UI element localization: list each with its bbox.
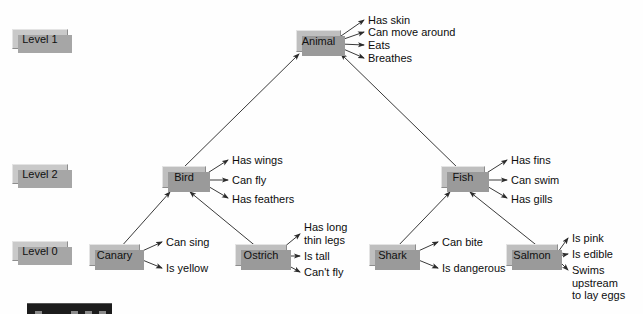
property-label-salmon-is-pink: Is pink: [572, 232, 604, 245]
concept-node-label: Salmon: [513, 250, 550, 261]
level-tag-label: Level 0: [22, 246, 57, 257]
concept-node-salmon[interactable]: Salmon: [506, 244, 558, 266]
property-label-salmon-swims-upstream-to-lay-eggs: Swims upstream to lay eggs: [572, 264, 625, 302]
property-label-fish-has-gills: Has gills: [511, 193, 553, 206]
semantic-network-diagram: Level 1 Level 2 Level 0 Animal Bird Fish…: [0, 0, 643, 314]
level-tag-level-1: Level 1: [12, 29, 68, 49]
cropped-toolbar-strip: [27, 303, 112, 314]
property-label-animal-breathes: Breathes: [368, 52, 412, 65]
prop-link-animal-0: [341, 20, 364, 36]
concept-node-label: Fish: [453, 172, 474, 183]
level-tag-label: Level 1: [22, 34, 57, 45]
level-tag-level-2: Level 2: [12, 164, 68, 184]
isa-link-bird-animal: [181, 54, 299, 170]
property-label-fish-has-fins: Has fins: [511, 154, 551, 167]
property-label-canary-can-sing: Can sing: [166, 236, 209, 249]
concept-node-label: Animal: [302, 36, 336, 47]
property-label-shark-can-bite: Can bite: [442, 236, 483, 249]
concept-node-canary[interactable]: Canary: [89, 244, 140, 266]
property-label-ostrich-is-tall: Is tall: [304, 250, 330, 263]
level-tag-level-0: Level 0: [12, 241, 68, 261]
concept-node-label: Bird: [174, 172, 194, 183]
concept-node-label: Ostrich: [244, 250, 279, 261]
property-label-animal-has-skin: Has skin: [368, 14, 410, 27]
property-label-ostrich-has-long-thin-legs: Has long thin legs: [304, 221, 347, 246]
concept-node-bird[interactable]: Bird: [162, 166, 206, 188]
property-label-bird-has-feathers: Has feathers: [232, 193, 294, 206]
isa-link-canary-bird: [120, 192, 170, 248]
concept-node-shark[interactable]: Shark: [369, 244, 416, 266]
property-label-salmon-is-edible: Is edible: [572, 248, 613, 261]
concept-node-animal[interactable]: Animal: [296, 30, 341, 52]
property-label-animal-can-move-around: Can move around: [368, 26, 455, 39]
level-tag-label: Level 2: [22, 169, 57, 180]
concept-node-label: Shark: [378, 250, 407, 261]
property-label-ostrich-cant-fly: Can't fly: [304, 266, 343, 279]
property-label-animal-eats: Eats: [368, 39, 390, 52]
property-label-canary-is-yellow: Is yellow: [166, 262, 208, 275]
concept-node-fish[interactable]: Fish: [441, 166, 485, 188]
concept-node-label: Canary: [97, 250, 132, 261]
property-label-fish-can-swim: Can swim: [511, 174, 559, 187]
isa-link-fish-animal: [341, 54, 460, 170]
concept-node-ostrich[interactable]: Ostrich: [235, 244, 287, 266]
property-label-shark-is-dangerous: Is dangerous: [442, 262, 506, 275]
property-label-bird-can-fly: Can fly: [232, 174, 266, 187]
property-label-bird-has-wings: Has wings: [232, 154, 283, 167]
